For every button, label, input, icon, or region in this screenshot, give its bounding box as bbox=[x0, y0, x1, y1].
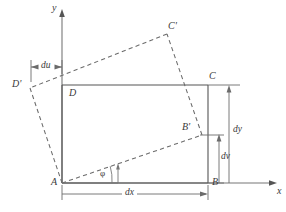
point-label-B-prime: B' bbox=[182, 122, 190, 132]
dimension-label-dy: dy bbox=[233, 125, 242, 135]
dimension-label-dx: dx bbox=[122, 188, 137, 198]
y-axis-arrowhead bbox=[59, 9, 65, 17]
du-arrowhead-left bbox=[31, 65, 39, 70]
dy-arrowhead-top bbox=[227, 85, 232, 93]
axes-group bbox=[59, 9, 277, 186]
point-label-C: C bbox=[209, 71, 216, 81]
point-label-A: A bbox=[51, 177, 57, 187]
deformed-parallelogram bbox=[30, 34, 202, 183]
x-axis-arrowhead bbox=[269, 180, 277, 186]
dx-arrowhead-right bbox=[200, 191, 208, 196]
deformed-edge-A-Bprime bbox=[62, 135, 202, 183]
point-label-C-prime: C' bbox=[168, 21, 177, 31]
deformed-edge-Dprime-A bbox=[30, 88, 62, 183]
angle-phi-label: φ bbox=[100, 169, 105, 178]
dimension-label-dv: dv bbox=[221, 152, 230, 162]
x-axis-label: x bbox=[277, 186, 281, 196]
point-label-B: B bbox=[212, 177, 218, 187]
dimension-label-du: du bbox=[39, 61, 53, 71]
deformation-diagram bbox=[0, 0, 286, 212]
angle-phi-arc bbox=[110, 166, 112, 183]
y-axis-label: y bbox=[52, 3, 56, 13]
angle-tick-arrowhead bbox=[116, 163, 120, 170]
point-label-D-prime: D' bbox=[12, 79, 21, 89]
du-arrowhead-right bbox=[55, 65, 63, 70]
point-label-D: D bbox=[69, 88, 76, 98]
original-rectangle bbox=[62, 85, 208, 183]
